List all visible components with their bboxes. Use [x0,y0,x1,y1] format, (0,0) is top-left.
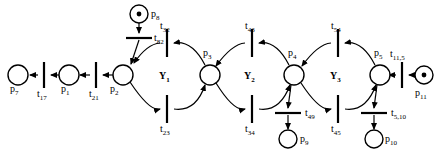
arc-t32-p2 [134,43,160,63]
place-p9 [279,130,297,148]
place-p7 [8,65,28,85]
place-label-p5: p5 [374,48,383,61]
place-label-p9: p9 [300,134,309,147]
subnet-label-Y3: Y3 [330,71,341,84]
transition-label-t49: t49 [305,108,315,121]
petri-net-diagram: p7 p1 p2 p3 p4 p5 p8 p9 p10 p11 t17 t21 … [0,0,439,158]
arc-t43-p3 [216,43,245,66]
arc-p4-t45 [301,83,331,109]
arc-t34-p4 [259,85,290,109]
place-p10 [365,130,383,148]
arc-p4-t43 [259,43,289,65]
transition-label-t54: t54 [331,21,341,34]
place-p2 [113,65,133,85]
arc-p3-t32 [174,43,205,65]
transition-label-t115: t11,5 [390,49,405,62]
transition-label-t34: t34 [245,124,255,137]
place-p1 [59,65,79,85]
transition-label-t23: t23 [160,124,170,137]
place-label-p7: p7 [10,84,19,97]
place-label-p10: p10 [385,134,397,147]
place-p3 [200,65,220,85]
place-label-p2: p2 [110,84,119,97]
arc-p2-t23 [130,82,160,109]
petri-net-graphics [0,0,439,158]
place-label-p4: p4 [288,48,297,61]
place-p4 [284,65,304,85]
transition-label-t43: t43 [245,21,255,34]
token-p11 [422,73,427,78]
token-p8 [137,12,142,17]
arc-p3-t34 [216,83,245,109]
subnet-label-Y1: Y1 [159,71,170,84]
transition-label-t510: t5,10 [391,108,406,121]
arc-t23-p3 [174,85,205,109]
subnet-label-Y2: Y2 [244,71,255,84]
places-layer [8,5,433,148]
place-p5 [370,65,390,85]
place-label-p8: p8 [151,9,160,22]
transition-label-t17: t17 [37,89,47,102]
arc-t82-p2 [131,40,139,64]
place-label-p3: p3 [203,48,212,61]
transition-label-t45: t45 [331,124,341,137]
arc-p5-t54 [345,43,375,65]
arcs-layer [30,23,415,129]
transition-label-t21: t21 [89,89,99,102]
transition-label-t82: t82 [154,33,164,46]
transition-label-t32: t32 [160,21,170,34]
place-label-p1: p1 [61,84,70,97]
arc-t45-p5 [345,85,376,109]
arc-t54-p4 [302,43,331,66]
place-label-p11: p11 [415,88,427,101]
